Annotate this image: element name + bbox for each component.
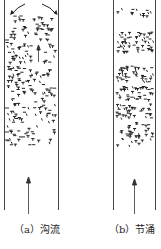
panel-a-particles	[6, 16, 57, 146]
panel-b-particles	[116, 8, 155, 147]
panel-a-inlet-arrow-icon	[27, 177, 31, 214]
flow-diagram	[0, 0, 161, 249]
panel-b-caption: （b）节涌	[109, 221, 155, 236]
panel-b-inlet-arrow-icon	[133, 179, 137, 214]
panel-a-recirculation-arrows-icon	[12, 4, 56, 14]
panel-a-caption: （a）沟流	[14, 221, 60, 236]
panel-a-rising-arrow-icon	[37, 45, 40, 62]
